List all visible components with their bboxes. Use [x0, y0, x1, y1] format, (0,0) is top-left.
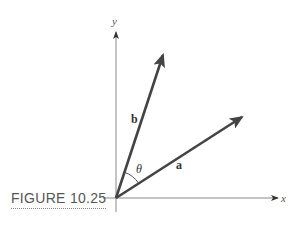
figure-caption: FIGURE 10.25	[11, 190, 106, 209]
angle-theta-label: θ	[136, 162, 142, 176]
x-axis-label: x	[280, 192, 286, 204]
y-axis-label: y	[111, 15, 117, 27]
vector-b	[116, 55, 163, 198]
vector-a-label: a	[176, 158, 182, 172]
vector-b-label: b	[131, 112, 138, 126]
